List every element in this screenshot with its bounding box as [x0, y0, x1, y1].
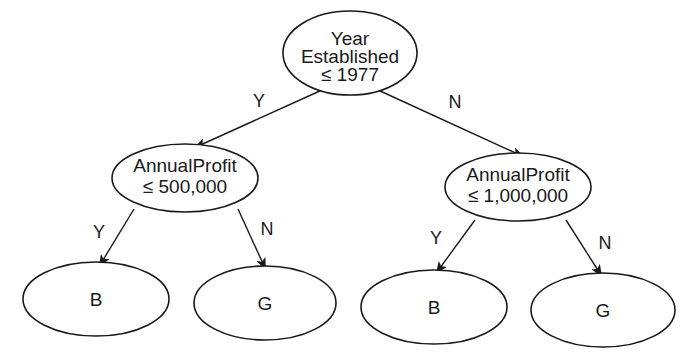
- left-node: AnnualProfit ≤ 500,000: [112, 144, 258, 212]
- leaf-left-b-label: B: [90, 289, 103, 310]
- edge-label-root-no: N: [449, 92, 462, 112]
- right-node: AnnualProfit ≤ 1,000,000: [445, 153, 591, 221]
- edge-label-left-no: N: [261, 219, 274, 239]
- leaf-node-right-g: G: [531, 273, 675, 347]
- leaf-node-right-b: B: [361, 270, 507, 344]
- decision-tree-diagram: Y N Y N Y N Year Established ≤ 1977 Annu…: [0, 0, 697, 361]
- leaf-right-g-label: G: [596, 300, 611, 321]
- edge-right-to-leaf4: [566, 220, 601, 275]
- left-node-line1: AnnualProfit: [133, 155, 237, 176]
- edge-label-right-yes: Y: [430, 228, 442, 248]
- leaf-left-g-label: G: [258, 293, 273, 314]
- left-node-line2: ≤ 500,000: [143, 176, 227, 197]
- edge-label-right-no: N: [599, 233, 612, 253]
- edge-label-left-yes: Y: [93, 222, 105, 242]
- leaf-right-b-label: B: [428, 297, 441, 318]
- right-node-line1: AnnualProfit: [466, 164, 570, 185]
- root-node: Year Established ≤ 1977: [283, 11, 417, 95]
- right-node-line2: ≤ 1,000,000: [468, 185, 568, 206]
- leaf-node-left-g: G: [194, 266, 336, 340]
- root-node-line3: ≤ 1977: [321, 64, 379, 85]
- edge-label-root-yes: Y: [253, 91, 265, 111]
- edge-right-to-leaf3: [437, 220, 475, 272]
- leaf-node-left-b: B: [23, 262, 169, 336]
- edge-left-to-leaf1: [100, 209, 134, 265]
